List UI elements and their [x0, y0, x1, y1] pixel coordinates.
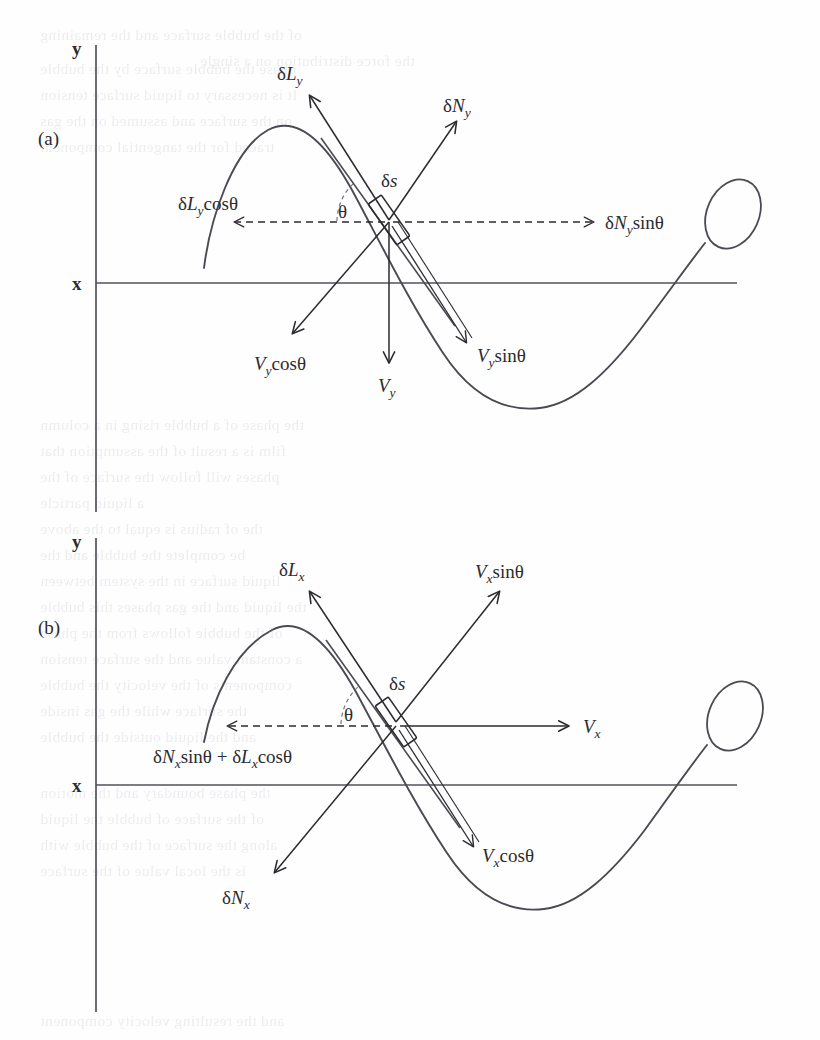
figure-page: of the bubble surface and the remainingt…	[0, 0, 820, 1040]
force-diagram-figure: (a) y x δLy δNy δ	[0, 0, 820, 1040]
panel-a-loop-ellipse	[695, 171, 772, 258]
panel-b-vector-deltaL	[310, 592, 396, 722]
panel-b-vector-Vcos	[399, 730, 473, 846]
panel-a-vector-deltaL	[310, 96, 389, 220]
panel-b-label-theta: θ	[344, 704, 353, 725]
panel-b-vector-deltaN	[275, 726, 396, 872]
panel-a-label-Vcos: Vycosθ	[254, 353, 306, 378]
panel-b-label-ds: δs	[389, 673, 405, 694]
panel-a-vector-Vcos	[293, 222, 389, 333]
panel-b-label-Vsin: Vxsinθ	[475, 561, 524, 586]
panel-a-label-deltaLcos: δLycosθ	[178, 193, 238, 218]
panel-a-label: (a)	[38, 128, 59, 150]
panel-a-label-ds: δs	[381, 170, 397, 191]
panel-a-vector-Vsin-shaft2	[398, 222, 472, 338]
panel-b-label-V: Vx	[583, 716, 601, 741]
panel-b-label-combined: δNxsinθ + δLxcosθ	[153, 746, 292, 771]
panel-a-label-theta: θ	[338, 201, 347, 222]
panel-b-label: (b)	[38, 617, 60, 639]
panel-a-vector-deltaN	[389, 122, 456, 220]
panel-a-vector-Vsin	[392, 226, 466, 342]
panel-a-label-deltaNsin: δNysinθ	[605, 212, 664, 237]
panel-a-y-axis-label: y	[72, 38, 82, 59]
panel-b-label-Vcos: Vxcosθ	[482, 845, 534, 870]
panel-a-label-deltaL: δLy	[277, 63, 303, 88]
panel-a-label-V: Vy	[378, 375, 396, 400]
panel-a-label-deltaN: δNy	[443, 95, 471, 120]
panel-b-label-deltaN: δNx	[222, 887, 250, 912]
panel-b-x-axis-label: x	[72, 775, 82, 796]
panel-a-label-Vsin: Vysinθ	[477, 345, 526, 370]
panel-b-vector-Vsin	[396, 592, 499, 722]
panel-b-loop-ellipse	[697, 673, 774, 760]
panel-b-vector-Vcos-shaft2	[405, 726, 479, 842]
panel-a-x-axis-label: x	[72, 273, 82, 294]
panel-b-surface-tangent	[326, 640, 460, 828]
panel-b-y-axis-label: y	[72, 531, 82, 552]
panel-a: (a) y x δLy δNy δ	[38, 38, 771, 512]
panel-b: (b) y x δLx Vxsinθ	[38, 531, 773, 1012]
panel-b-label-deltaL: δLx	[279, 559, 305, 584]
